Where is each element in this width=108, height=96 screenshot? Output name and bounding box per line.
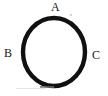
label-b: B: [4, 47, 12, 59]
scan-artifact-dot: [70, 14, 72, 16]
label-a: A: [51, 1, 60, 13]
scan-artifact-smudge: [16, 88, 46, 89]
circle-diagram-figure: A B C: [0, 0, 108, 96]
scan-artifact-dash: [40, 86, 54, 88]
label-c: C: [92, 49, 100, 61]
